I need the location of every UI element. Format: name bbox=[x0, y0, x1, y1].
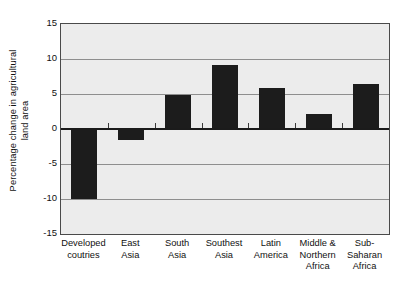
y-tick-label-10: 10 bbox=[46, 53, 57, 63]
x-category-label-1: EastAsia bbox=[121, 238, 140, 261]
gridline-10 bbox=[61, 59, 389, 60]
x-axis-category-labels: DevelopedcoutriesEastAsiaSouthAsiaSouthe… bbox=[60, 238, 390, 291]
gridline--5 bbox=[61, 164, 389, 165]
x-category-label-4-line-0: Latin bbox=[254, 238, 288, 250]
y-axis-title-line-1: Percentage change in agricultural bbox=[9, 49, 21, 191]
plot-area bbox=[60, 23, 390, 235]
y-axis-title-line-2: land area bbox=[20, 49, 32, 191]
x-category-label-1-line-1: Asia bbox=[121, 250, 140, 262]
x-category-label-3-line-0: Southest bbox=[206, 238, 243, 250]
gridline--10 bbox=[61, 199, 389, 200]
x-category-label-5-line-0: Middle & bbox=[300, 238, 336, 250]
x-category-label-2-line-0: South bbox=[165, 238, 189, 250]
x-category-label-6-line-0: Sub- bbox=[347, 238, 382, 250]
bar-2 bbox=[165, 95, 191, 129]
bar-1 bbox=[118, 129, 144, 140]
x-category-label-5-line-2: Africa bbox=[300, 261, 336, 273]
x-category-label-6: Sub-SaharanAfrica bbox=[347, 238, 382, 273]
x-category-label-2: SouthAsia bbox=[165, 238, 189, 261]
bar-3 bbox=[212, 65, 238, 129]
x-category-label-4-line-1: America bbox=[254, 250, 288, 262]
x-category-label-6-line-2: Africa bbox=[347, 261, 382, 273]
x-category-label-1-line-0: East bbox=[121, 238, 140, 250]
bar-0 bbox=[71, 129, 97, 199]
bar-4 bbox=[259, 88, 285, 129]
zero-axis-line bbox=[61, 128, 389, 130]
x-category-label-5: Middle &NorthernAfrica bbox=[300, 238, 336, 273]
x-category-label-3: SouthestAsia bbox=[206, 238, 243, 261]
bar-5 bbox=[306, 114, 332, 129]
y-tick-label-5: 5 bbox=[52, 88, 57, 98]
x-category-label-6-line-1: Saharan bbox=[347, 250, 382, 262]
bar-chart-figure: Percentage change in agricultural land a… bbox=[0, 0, 415, 291]
y-tick-label--5: -5 bbox=[49, 158, 57, 168]
bar-6 bbox=[353, 84, 379, 130]
x-category-label-0: Developedcoutries bbox=[61, 238, 105, 261]
x-category-label-4: LatinAmerica bbox=[254, 238, 288, 261]
x-category-label-5-line-1: Northern bbox=[300, 250, 336, 262]
x-category-label-2-line-1: Asia bbox=[165, 250, 189, 262]
x-category-label-0-line-0: Developed bbox=[61, 238, 105, 250]
y-tick-label-15: 15 bbox=[46, 18, 57, 28]
x-category-label-0-line-1: coutries bbox=[61, 250, 105, 262]
y-axis-tick-labels: 151050-5-10-15 bbox=[33, 23, 57, 235]
y-tick-label--10: -10 bbox=[43, 193, 57, 203]
y-tick-label-0: 0 bbox=[52, 123, 57, 133]
y-tick-label--15: -15 bbox=[43, 228, 57, 238]
x-category-label-3-line-1: Asia bbox=[206, 250, 243, 262]
